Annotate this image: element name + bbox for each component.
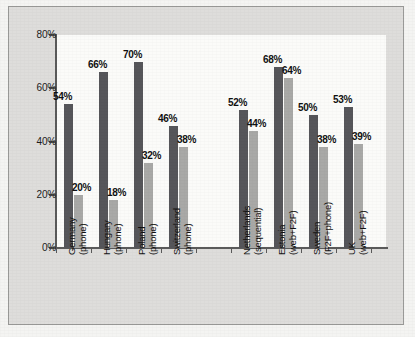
bar-value-label-light: 32% — [142, 150, 161, 161]
x-axis-tick — [231, 248, 232, 253]
category-label-line2: (phone) — [148, 171, 159, 255]
y-axis-tick-label: 20% — [9, 189, 56, 201]
bar-value-label-light: 38% — [317, 134, 336, 145]
bar-value-label-dark: 54% — [53, 91, 72, 102]
y-axis-tick-label-text: 80% — [22, 29, 56, 40]
chart-figure-frame: 0%20%40%60%80% 54%20%66%18%70%32%46%38%5… — [8, 6, 404, 325]
bar-value-label-dark: 66% — [88, 59, 107, 70]
category-label-line1: Estonia — [277, 171, 288, 255]
x-axis-category-label: UK(web+F2F) — [347, 171, 368, 255]
x-axis-tick — [56, 248, 57, 253]
category-label-line1: Netherlands — [242, 171, 253, 255]
x-axis-tick — [91, 248, 92, 253]
bar-value-label-light: 44% — [247, 118, 266, 129]
y-axis-tick-label-text: 40% — [22, 136, 56, 147]
bar-value-label-light: 64% — [282, 65, 301, 76]
category-label-line2: (F2F+phone) — [323, 171, 334, 255]
x-axis-category-label: Poland(phone) — [137, 171, 158, 255]
x-axis-tick — [126, 248, 127, 253]
bar-value-label-dark: 70% — [123, 49, 142, 60]
category-label-line1: Sweden — [312, 171, 323, 255]
category-label-line1: Germany — [67, 171, 78, 255]
x-axis-category-label: Hungary(phone) — [102, 171, 123, 255]
bar-value-label-dark: 52% — [228, 97, 247, 108]
bar-value-label-light: 39% — [352, 131, 371, 142]
x-axis-tick — [161, 248, 162, 253]
bar-value-label-dark: 68% — [263, 54, 282, 65]
y-axis-tick-label-text: 60% — [22, 82, 56, 93]
y-axis-tick-label: 60% — [9, 82, 56, 94]
category-label-line1: Hungary — [102, 171, 113, 255]
category-label-line2: (phone) — [183, 171, 194, 255]
x-axis-category-label: Netherlands(sequential) — [242, 171, 263, 255]
category-label-line2: (sequential) — [253, 171, 264, 255]
category-label-line2: (web+F2F) — [358, 171, 369, 255]
scanned-page-background: 0%20%40%60%80% 54%20%66%18%70%32%46%38%5… — [0, 0, 415, 337]
category-label-line2: (phone) — [78, 171, 89, 255]
bar-value-label-dark: 53% — [333, 94, 352, 105]
category-label-line2: (web+F2F) — [288, 171, 299, 255]
y-axis-tick-label: 0% — [9, 242, 56, 254]
y-axis-tick-label: 40% — [9, 136, 56, 148]
y-axis-tick-label-text: 20% — [22, 189, 56, 200]
bar-value-label-dark: 50% — [298, 102, 317, 113]
x-axis-category-label: Germany(phone) — [67, 171, 88, 255]
y-axis-tick-label-text: 0% — [22, 242, 56, 253]
x-axis-tick — [266, 248, 267, 253]
x-axis-category-label: Switzerland(phone) — [172, 171, 193, 255]
x-axis-category-label: Estonia(web+F2F) — [277, 171, 298, 255]
x-axis-tick — [336, 248, 337, 253]
category-label-line1: UK — [347, 171, 358, 255]
x-axis-tick — [301, 248, 302, 253]
bar-value-label-light: 38% — [177, 134, 196, 145]
bar-value-label-dark: 46% — [158, 113, 177, 124]
category-label-line1: Switzerland — [172, 171, 183, 255]
x-axis-tick — [196, 248, 197, 253]
x-axis-tick — [371, 248, 372, 253]
y-axis-tick-label: 80% — [9, 29, 56, 41]
category-label-line2: (phone) — [113, 171, 124, 255]
category-label-line1: Poland — [137, 171, 148, 255]
x-axis-category-label: Sweden(F2F+phone) — [312, 171, 333, 255]
